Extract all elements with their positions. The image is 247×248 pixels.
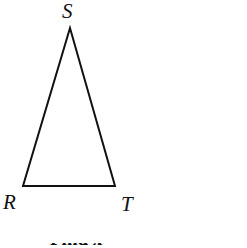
vertex-label-r: R — [3, 192, 16, 213]
figure-caption: Find x — [50, 243, 102, 248]
caption-clip: Find x — [0, 243, 247, 248]
vertex-label-t: T — [121, 194, 133, 215]
vertex-label-s: S — [62, 1, 73, 22]
geometry-figure: S R T Find x — [0, 0, 247, 248]
triangle-shape — [23, 28, 115, 186]
